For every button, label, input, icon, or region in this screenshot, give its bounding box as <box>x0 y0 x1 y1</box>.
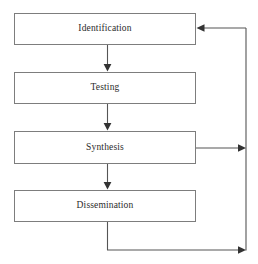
connector-synthesis-to-feedback-bus <box>196 144 246 151</box>
node-identification-label: Identification <box>78 24 131 34</box>
connector-dissemination-to-feedback-bus <box>108 222 247 254</box>
flowchart-diagram: Identification Testing Synthesis Dissemi… <box>0 0 258 264</box>
node-testing-label: Testing <box>91 83 120 93</box>
node-synthesis-label: Synthesis <box>86 143 124 153</box>
node-synthesis[interactable]: Synthesis <box>14 131 196 164</box>
node-dissemination[interactable]: Dissemination <box>14 190 196 222</box>
connector-feedback-bus-to-identification <box>197 24 247 31</box>
connector-identification-to-testing <box>104 45 112 72</box>
connector-testing-to-synthesis <box>104 104 112 131</box>
connector-synthesis-to-dissemination <box>104 164 112 190</box>
node-dissemination-label: Dissemination <box>77 201 134 211</box>
node-testing[interactable]: Testing <box>14 72 196 104</box>
node-identification[interactable]: Identification <box>14 13 196 45</box>
